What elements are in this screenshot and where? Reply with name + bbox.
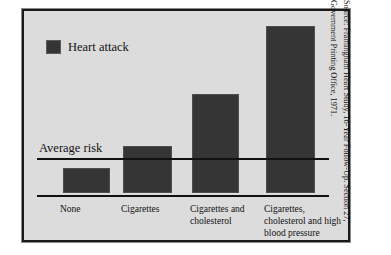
category-label-line: cholesterol <box>190 215 264 227</box>
legend-swatch-heart-attack <box>46 40 61 54</box>
chart-plot-area: Heart attack Average risk None Cigarette… <box>24 11 348 240</box>
bar-cigarettes-cholesterol-high-blood-pressure <box>266 26 315 193</box>
category-label-line: Cigarettes and <box>190 203 264 215</box>
bar-none <box>63 168 110 193</box>
category-label-none: None <box>60 203 120 215</box>
bar-cigarettes-and-cholesterol <box>192 94 239 193</box>
category-label-line: Cigarettes <box>121 203 191 215</box>
legend-label-heart-attack: Heart attack <box>68 41 129 54</box>
category-label-line: blood pressure <box>264 227 350 239</box>
category-label-cigarettes: Cigarettes <box>121 203 191 215</box>
average-risk-line <box>37 158 329 160</box>
category-label-line: Cigarettes, <box>264 203 350 215</box>
average-risk-label: Average risk <box>39 142 102 155</box>
figure-frame: Heart attack Average risk None Cigarette… <box>22 9 350 242</box>
category-label-cigarettes-and-cholesterol: Cigarettes and cholesterol <box>190 203 264 227</box>
category-label-line: None <box>60 203 120 215</box>
bar-cigarettes <box>123 146 172 193</box>
category-label-line: cholesterol and high <box>264 215 350 227</box>
category-label-cigarettes-cholesterol-high-blood-pressure: Cigarettes, cholesterol and high blood p… <box>264 203 350 239</box>
chart-baseline-axis <box>37 195 329 197</box>
chart-legend: Heart attack <box>46 40 129 54</box>
